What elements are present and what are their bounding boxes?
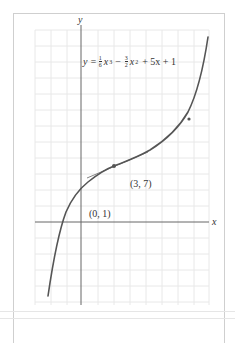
eq-frac1-den: 6 <box>99 62 102 68</box>
grid <box>35 30 209 305</box>
inflection-point <box>112 164 116 168</box>
eq-rest: + 5x + 1 <box>142 56 176 67</box>
eq-frac2: 3 2 <box>125 55 128 68</box>
eq-frac1: 1 6 <box>99 55 102 68</box>
eq-minus: − <box>115 56 121 67</box>
eq-sup2: 2 <box>135 59 138 65</box>
eq-x3: x <box>104 56 108 67</box>
eq-x2: x <box>130 56 134 67</box>
curve-point <box>187 117 190 120</box>
equation-label: y = 1 6 x3 − 3 2 x2 + 5x + 1 <box>83 55 176 68</box>
eq-sup3: 3 <box>109 59 112 65</box>
eq-frac2-den: 2 <box>125 62 128 68</box>
eq-frac1-num: 1 <box>99 55 102 62</box>
eq-y: y = <box>83 56 97 67</box>
x-axis-label: x <box>212 216 216 227</box>
point-label-inflection: (3, 7) <box>130 178 152 189</box>
curve <box>48 37 208 296</box>
point-label-origin: (0, 1) <box>89 208 111 219</box>
y-axis-label: y <box>78 14 82 25</box>
eq-frac2-num: 3 <box>125 55 128 62</box>
